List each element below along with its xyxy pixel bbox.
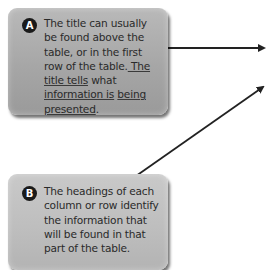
badge-b: B: [22, 186, 37, 201]
callout-box-a: A The title can usually be found above t…: [8, 8, 168, 115]
callout-box-b: B The headings of each column or row ide…: [8, 174, 168, 270]
badge-a: A: [22, 18, 37, 33]
callout-b-text: The headings of each column or row ident…: [44, 185, 159, 254]
callout-a-text: The title can usually be found above the…: [44, 17, 150, 115]
